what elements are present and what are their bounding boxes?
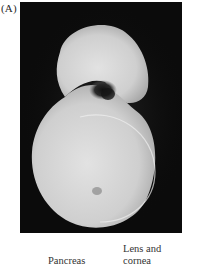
embryo-photo	[20, 2, 182, 233]
label-lens-line1: Lens and	[123, 243, 161, 255]
panel-label: (A)	[1, 2, 17, 14]
label-pancreas: Pancreas	[48, 255, 85, 267]
label-lens-cornea: Lens and cornea	[123, 243, 161, 267]
label-lens-line2: cornea	[123, 255, 161, 267]
embryo-illustration	[20, 2, 182, 233]
